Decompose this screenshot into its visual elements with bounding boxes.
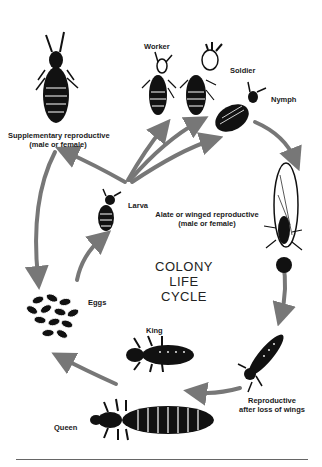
dealate-reproductive-insect xyxy=(238,331,288,392)
nymph-insect xyxy=(210,82,266,137)
label-reproductive: Reproductive after loss of wings xyxy=(232,396,312,414)
title-line2: LIFE CYCLE xyxy=(148,274,220,304)
larva-insect xyxy=(98,189,121,231)
label-line1: Supplementary reproductive xyxy=(8,131,108,140)
label-line1: Alate or winged reproductive xyxy=(152,210,262,219)
label-line1: Reproductive xyxy=(232,396,312,405)
worker-insect xyxy=(142,52,176,115)
label-alate: Alate or winged reproductive (male or fe… xyxy=(152,210,262,228)
label-line2: (male or female) xyxy=(8,140,108,149)
label-nymph: Nymph xyxy=(271,95,296,104)
arrow-eggs-to-larva xyxy=(77,238,102,280)
arrow-to-alate xyxy=(255,122,295,160)
arrow-to-king xyxy=(195,388,240,393)
label-line2: after loss of wings xyxy=(232,405,312,414)
arrow-to-nymph xyxy=(132,140,212,182)
arrow-supp-to-eggs xyxy=(36,152,55,278)
label-line2: (male or female) xyxy=(152,219,262,228)
label-worker: Worker xyxy=(144,42,170,51)
label-queen: Queen xyxy=(54,423,77,432)
arrow-to-supplementary xyxy=(66,152,125,182)
diagram-title: COLONY LIFE CYCLE xyxy=(148,259,220,304)
label-supplementary-reproductive: Supplementary reproductive (male or fema… xyxy=(8,131,108,149)
label-larva: Larva xyxy=(128,201,148,210)
bottom-rule xyxy=(16,459,308,460)
queen-insect xyxy=(90,399,214,440)
arrow-to-eggs xyxy=(62,358,116,384)
label-soldier: Soldier xyxy=(230,66,255,75)
eggs-cluster xyxy=(25,292,80,340)
label-eggs: Eggs xyxy=(88,298,106,307)
label-king: King xyxy=(146,326,163,335)
alate-insect xyxy=(264,163,302,273)
supplementary-reproductive-insect xyxy=(36,32,78,123)
title-line1: COLONY xyxy=(148,259,220,274)
soldier-insect xyxy=(180,42,222,115)
king-insect xyxy=(126,336,194,372)
